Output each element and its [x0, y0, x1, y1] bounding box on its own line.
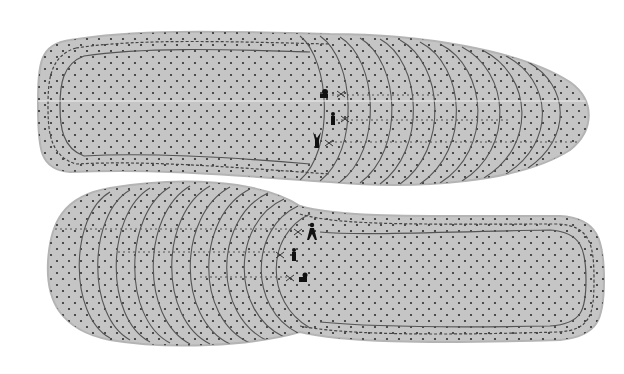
- standing-figure-icon: [292, 248, 296, 261]
- bottom-insole: [0, 170, 624, 370]
- insoles-photo: [0, 0, 624, 374]
- standing-figure-icon: [331, 112, 335, 125]
- top-insole: [0, 0, 624, 200]
